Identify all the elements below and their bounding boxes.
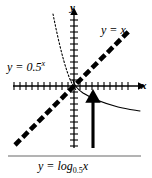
series-exponential-curve: [53, 14, 76, 90]
curve-label-logarithm-lead: y = log: [38, 159, 73, 173]
series-logarithm-curve: [73, 80, 140, 111]
curve-label-exponential: y = 0.5x: [7, 60, 45, 73]
curve-label-logarithm-argument: x: [83, 159, 88, 173]
axis-label-y: y: [70, 2, 75, 13]
curve-label-identity: y = x: [101, 24, 126, 36]
curve-label-logarithm: y = log0.5x: [38, 160, 88, 175]
math-figure: y x y = 0.5x y = x y = log0.5x: [0, 0, 152, 178]
curve-label-exponential-exponent: x: [41, 59, 45, 68]
curve-label-logarithm-base: 0.5: [73, 166, 83, 175]
axis-label-x: x: [141, 80, 147, 91]
graph-canvas: [0, 0, 152, 178]
curve-label-exponential-lead: y = 0.5: [7, 60, 41, 74]
